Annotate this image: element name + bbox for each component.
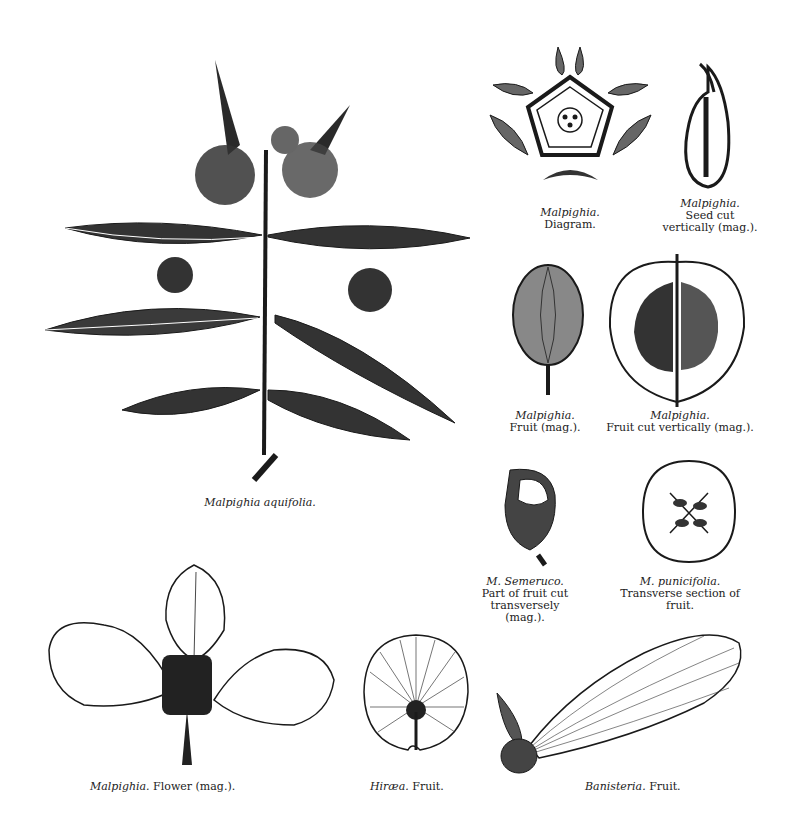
species-label: Malpighia. — [90, 780, 150, 793]
figure-malpighia-fruit — [508, 255, 588, 400]
caption-text: Fruit (mag.). — [490, 422, 600, 434]
fruit-illustration — [508, 255, 588, 400]
caption-line: fruit. — [610, 600, 750, 612]
caption-text: Fruit. — [412, 780, 443, 793]
figure-banisteria-fruit — [494, 628, 746, 776]
hiraea-illustration — [360, 632, 472, 754]
caption-banisteria: Banisteria. Fruit. — [585, 781, 705, 793]
caption-punicifolia: M. punicifolia. Transverse section of fr… — [610, 576, 750, 612]
species-label: Hiræa. — [370, 780, 409, 793]
caption-text: Fruit. — [649, 780, 680, 793]
caption-fruit-cut: Malpighia. Fruit cut vertically (mag.). — [600, 410, 760, 434]
figure-hiraea-fruit — [360, 632, 472, 754]
fruit-cut-illustration — [606, 252, 748, 407]
floral-diagram — [488, 45, 653, 190]
caption-line: vertically (mag.). — [655, 222, 765, 234]
caption-fruit: Malpighia. Fruit (mag.). — [490, 410, 600, 434]
species-label: Banisteria. — [585, 780, 646, 793]
caption-flower: Malpighia. Flower (mag.). — [90, 781, 290, 793]
figure-malpighia-diagram — [488, 45, 653, 190]
figure-semeruco — [500, 465, 560, 570]
caption-text: Flower (mag.). — [153, 780, 235, 793]
caption-hiraea: Hiræa. Fruit. — [370, 781, 470, 793]
species-label: Malpighia aquifolia. — [204, 496, 316, 509]
caption-text: Diagram. — [520, 219, 620, 231]
punicifolia-illustration — [640, 458, 738, 566]
figure-malpighia-seed — [678, 62, 738, 192]
caption-seed: Malpighia. Seed cut vertically (mag.). — [655, 198, 765, 234]
caption-text: Fruit cut vertically (mag.). — [600, 422, 760, 434]
flower-illustration — [44, 560, 339, 770]
semeruco-illustration — [500, 465, 560, 570]
caption-line: transversely (mag.). — [470, 600, 580, 624]
banisteria-illustration — [494, 628, 746, 776]
caption-semeruco: M. Semeruco. Part of fruit cut transvers… — [470, 576, 580, 624]
plant-illustration — [40, 55, 480, 485]
caption-malpighia-aquifolia: Malpighia aquifolia. — [180, 497, 340, 509]
seed-illustration — [678, 62, 738, 192]
figure-punicifolia — [640, 458, 738, 566]
figure-malpighia-aquifolia — [40, 55, 480, 485]
caption-diagram: Malpighia. Diagram. — [520, 207, 620, 231]
figure-malpighia-fruit-cut — [606, 252, 748, 407]
figure-malpighia-flower — [44, 560, 339, 770]
